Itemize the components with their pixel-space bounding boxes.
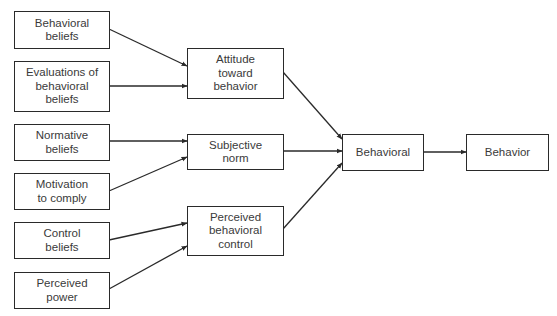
node-normative-beliefs: Normative beliefs <box>14 124 110 161</box>
arrow-motivation-to-subjective-norm <box>109 157 187 191</box>
node-perceived-power: Perceived power <box>14 272 110 309</box>
node-subjective-norm: Subjective norm <box>187 134 284 170</box>
arrow-pbc-to-behavioral <box>283 163 342 229</box>
node-behavior: Behavior <box>466 134 549 171</box>
node-behavioral-beliefs: Behavioral beliefs <box>14 11 110 49</box>
node-attitude-toward-behavior: Attitude toward behavior <box>187 48 284 99</box>
arrow-perceived-power-to-pbc <box>109 246 187 289</box>
arrow-control-beliefs-to-pbc <box>109 223 187 240</box>
arrow-behavioral-beliefs-to-attitude <box>109 29 187 66</box>
node-motivation-to-comply: Motivation to comply <box>14 173 110 210</box>
node-perceived-behavioral-control: Perceived behavioral control <box>187 206 284 256</box>
arrow-attitude-to-behavioral <box>283 72 342 139</box>
node-control-beliefs: Control beliefs <box>14 222 110 259</box>
node-evaluations-of-behavioral-beliefs: Evaluations of behavioral beliefs <box>14 61 110 112</box>
node-behavioral: Behavioral <box>342 134 424 171</box>
